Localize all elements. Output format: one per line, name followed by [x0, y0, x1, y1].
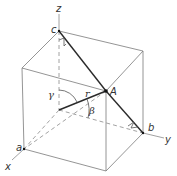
label-A: A: [109, 86, 117, 97]
label-y: y: [164, 134, 172, 145]
line-c-to-A: [59, 31, 106, 91]
angle-gamma-arc: [59, 90, 77, 102]
label-a: a: [16, 142, 22, 153]
hidden-y-edge: [59, 110, 143, 133]
hidden-x-edge: [24, 110, 59, 149]
label-x: x: [4, 161, 11, 172]
label-z: z: [55, 3, 62, 14]
y-axis: [143, 133, 164, 138]
point-c: [58, 30, 60, 32]
cube-diagram: z y x c b a A r γ β: [0, 0, 177, 176]
label-b: b: [148, 122, 154, 133]
point-b: [142, 132, 144, 134]
label-beta: β: [88, 105, 95, 116]
cube-edge: [22, 68, 106, 91]
point-A: [104, 89, 108, 93]
cube-edge: [106, 51, 143, 91]
dashed-A-to-a: [24, 91, 106, 149]
label-gamma: γ: [48, 89, 54, 100]
label-c: c: [51, 24, 57, 35]
cube-edge: [22, 31, 59, 68]
point-a: [23, 148, 25, 150]
cube-edge: [22, 68, 24, 149]
cube-edge: [24, 149, 106, 171]
cube-edge: [106, 133, 143, 171]
